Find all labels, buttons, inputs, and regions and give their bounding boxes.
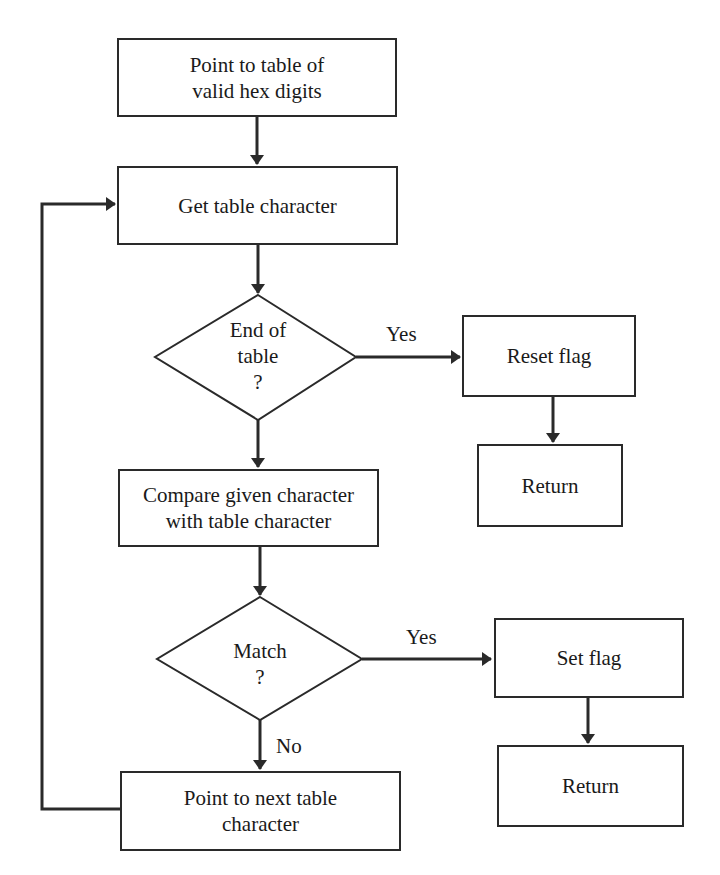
process-set-flag: Set flag (494, 618, 684, 698)
match-line1: Match (200, 638, 320, 664)
next-line2: character (184, 811, 337, 837)
process-get-table-character: Get table character (117, 166, 398, 245)
set-flag-text: Set flag (557, 645, 622, 671)
end-line3: ? (198, 369, 318, 395)
return-2-text: Return (562, 773, 619, 799)
arrow-loop-back (42, 204, 120, 809)
edge-label-match-no: No (276, 734, 302, 759)
return-1-text: Return (521, 473, 578, 499)
edge-label-end-yes: Yes (386, 322, 417, 347)
decision-match-text: Match ? (200, 638, 320, 690)
end-line2: table (198, 343, 318, 369)
next-line1: Point to next table (184, 785, 337, 811)
compare-line2: with table character (143, 508, 354, 534)
compare-line1: Compare given character (143, 482, 354, 508)
process-point-to-next: Point to next tablecharacter (120, 771, 401, 851)
decision-end-of-table-text: End of table ? (198, 317, 318, 395)
terminal-return-2: Return (497, 745, 684, 827)
terminal-return-1: Return (477, 444, 623, 527)
end-line1: End of (198, 317, 318, 343)
reset-flag-text: Reset flag (507, 343, 592, 369)
flowchart-connectors (0, 0, 720, 875)
get-char-text: Get table character (178, 193, 337, 219)
process-reset-flag: Reset flag (462, 315, 636, 397)
start-line1: Point to table of (190, 52, 325, 78)
match-line2: ? (200, 664, 320, 690)
start-line2: valid hex digits (190, 78, 325, 104)
process-point-to-table: Point to table ofvalid hex digits (117, 38, 397, 117)
edge-label-match-yes: Yes (406, 625, 437, 650)
process-compare: Compare given characterwith table charac… (118, 469, 379, 547)
